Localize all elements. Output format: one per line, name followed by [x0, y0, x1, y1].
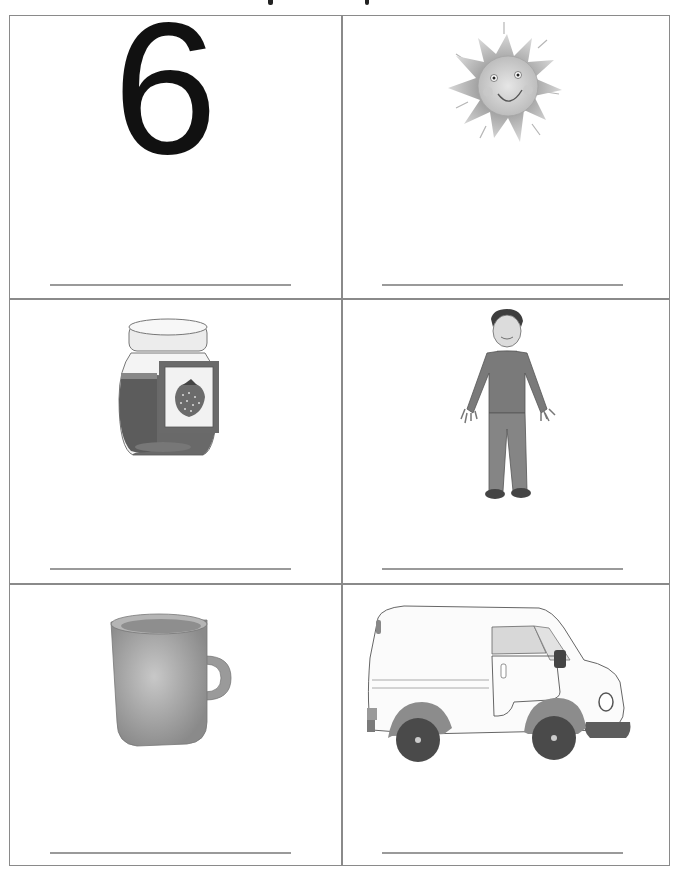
answer-line[interactable]: [50, 568, 291, 570]
cell-mug: [10, 584, 341, 867]
answer-line[interactable]: [50, 284, 291, 286]
cell-sun: [342, 16, 671, 298]
van-icon: [364, 598, 634, 768]
sun-icon: [442, 20, 572, 155]
worksheet-grid: 6: [9, 15, 670, 866]
cell-van: [342, 584, 671, 867]
boy-icon: [457, 309, 557, 504]
number-six: 6: [113, 0, 218, 182]
cell-boy: [342, 299, 671, 583]
answer-line[interactable]: [50, 852, 291, 854]
cell-jam: [10, 299, 341, 583]
answer-line[interactable]: [382, 568, 623, 570]
clipped-header-text: [268, 0, 273, 5]
clipped-header-text: [365, 0, 369, 5]
jam-jar-icon: [113, 309, 223, 459]
cell-number: 6: [10, 16, 341, 298]
answer-line[interactable]: [382, 852, 623, 854]
mug-icon: [107, 612, 237, 752]
answer-line[interactable]: [382, 284, 623, 286]
